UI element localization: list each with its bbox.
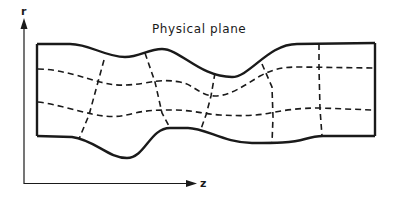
top-wall <box>37 43 375 77</box>
r-axis-arrow-icon <box>21 18 28 29</box>
grid-line-transverse-5 <box>319 44 322 136</box>
physical-plane-diagram: r z Physical plane <box>0 0 397 199</box>
grid-line-transverse-1 <box>79 60 104 139</box>
bottom-wall <box>37 128 375 158</box>
z-axis-arrow-icon <box>186 180 197 187</box>
z-axis-label: z <box>200 177 206 190</box>
curvilinear-grid <box>38 44 373 143</box>
grid-line-transverse-3 <box>201 73 215 129</box>
grid-line-transverse-4 <box>262 64 273 143</box>
domain-boundary <box>37 43 375 158</box>
r-axis-label: r <box>21 5 27 18</box>
figure-title: Physical plane <box>152 22 246 36</box>
grid-line-transverse-2 <box>145 53 170 128</box>
